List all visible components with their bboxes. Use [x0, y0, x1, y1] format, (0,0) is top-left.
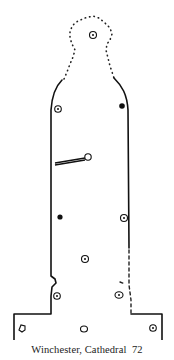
upper-right-hole	[119, 103, 125, 109]
upper-left-hole	[55, 106, 62, 113]
lower-right-hole	[115, 292, 123, 298]
head-hole	[90, 32, 97, 39]
mid-right-hole	[121, 215, 128, 222]
right-edge-dashed-tick	[120, 282, 125, 284]
lower-center-hole	[82, 256, 89, 263]
figure-caption: Winchester, Cathedral 72	[0, 344, 174, 355]
dotted-head-outline	[64, 16, 114, 79]
mid-left-hole	[57, 214, 62, 219]
strap-pin-hole	[85, 154, 91, 160]
base-right-hole	[150, 325, 157, 332]
hinge-drawing	[0, 0, 174, 340]
lower-left-hole	[54, 293, 61, 300]
base-center-hole	[81, 326, 88, 332]
base-left-hole	[19, 325, 25, 332]
left-edge-outline	[14, 80, 162, 340]
right-edge-dashed-outline	[129, 250, 131, 314]
